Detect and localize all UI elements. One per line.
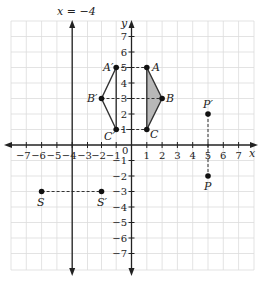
point-S-prime <box>99 189 105 195</box>
point-B-prime <box>99 96 105 102</box>
svg-text:5: 5 <box>205 150 211 161</box>
svg-text:2: 2 <box>159 150 165 161</box>
label-B: B <box>165 92 174 105</box>
label-P: P <box>203 180 212 193</box>
x-axis-arrow-left <box>4 142 12 148</box>
svg-text:−3: −3 <box>77 150 92 161</box>
svg-text:−5: −5 <box>47 150 62 161</box>
label-A-prime: A′ <box>102 61 114 74</box>
point-A <box>144 65 150 71</box>
label-P-prime: P′ <box>202 98 213 111</box>
svg-text:7: 7 <box>235 150 241 161</box>
label-A: A <box>151 61 160 74</box>
reflection-line-label: x = −4 <box>57 5 96 18</box>
x-tick-labels: −7 −6 −5 −4 −3 −2 −1 1 2 3 4 5 6 7 <box>16 150 242 161</box>
svg-text:−6: −6 <box>31 150 46 161</box>
svg-text:−6: −6 <box>112 233 127 244</box>
svg-text:3: 3 <box>121 93 127 104</box>
point-B <box>159 96 165 102</box>
point-S <box>39 189 45 195</box>
svg-text:−5: −5 <box>112 217 127 228</box>
svg-text:2: 2 <box>121 109 127 120</box>
svg-text:3: 3 <box>174 150 180 161</box>
svg-text:−4: −4 <box>112 202 127 213</box>
coordinate-plane: −7 −6 −5 −4 −3 −2 −1 1 2 3 4 5 6 7 0 7 6… <box>0 0 263 281</box>
svg-text:4: 4 <box>190 150 196 161</box>
point-C <box>144 127 150 133</box>
label-C-prime: C′ <box>104 130 115 143</box>
point-P <box>205 173 211 179</box>
svg-text:−2: −2 <box>91 150 106 161</box>
point-P-prime <box>205 111 211 117</box>
label-S-prime: S′ <box>97 196 108 209</box>
svg-text:−4: −4 <box>62 150 77 161</box>
svg-text:1: 1 <box>121 124 127 135</box>
svg-text:7: 7 <box>121 31 127 42</box>
y-axis-arrow-down <box>129 268 135 276</box>
svg-text:6: 6 <box>121 47 127 58</box>
x-axis-label: x <box>249 147 256 160</box>
svg-text:1: 1 <box>144 150 150 161</box>
label-C: C <box>150 128 159 141</box>
svg-text:−2: −2 <box>112 171 127 182</box>
point-A-prime <box>113 65 119 71</box>
svg-text:4: 4 <box>121 78 127 89</box>
y-axis-label: y <box>120 17 128 30</box>
label-S: S <box>37 196 45 209</box>
svg-text:−3: −3 <box>112 186 127 197</box>
svg-text:6: 6 <box>220 150 226 161</box>
svg-text:−7: −7 <box>16 150 31 161</box>
label-B-prime: B′ <box>86 92 98 105</box>
reflection-line-arrow-down <box>69 268 75 276</box>
svg-text:−1: −1 <box>112 155 127 166</box>
svg-text:−7: −7 <box>112 248 127 259</box>
svg-text:5: 5 <box>121 62 127 73</box>
